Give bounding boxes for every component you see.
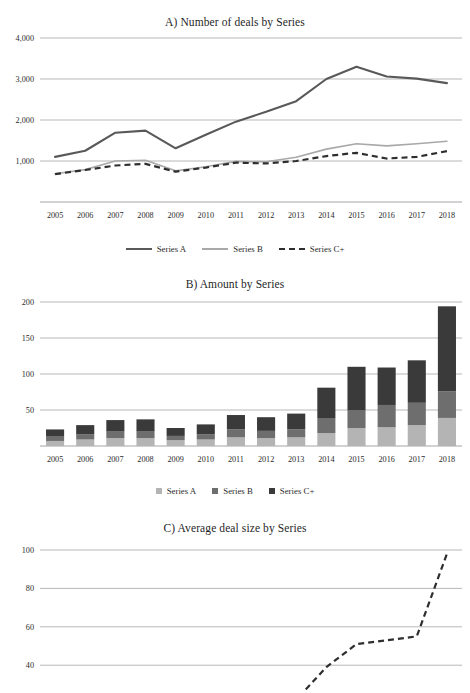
- legend-item-series-c[interactable]: Series C+: [279, 244, 345, 254]
- bar-segment: [347, 367, 365, 410]
- legend-item-series-b[interactable]: Series B: [202, 244, 263, 254]
- panel-a: A) Number of deals by Series 1,0002,0003…: [0, 0, 470, 278]
- figure-page: A) Number of deals by Series 1,0002,0003…: [0, 0, 470, 693]
- panel-b-legend: Series ASeries BSeries C+: [0, 486, 470, 496]
- x-tick-label: 2017: [409, 455, 425, 464]
- bar-segment: [46, 429, 64, 436]
- bar-segment: [347, 410, 365, 428]
- bar-segment: [197, 440, 215, 446]
- series-line-series-b: [55, 141, 447, 173]
- bar-segment: [408, 425, 426, 446]
- panel-b-title: B) Amount by Series: [0, 272, 470, 290]
- series-line-series-a: [55, 67, 447, 157]
- legend-item-series-a[interactable]: Series A: [156, 486, 197, 496]
- x-tick-label: 2013: [288, 455, 304, 464]
- x-tick-label: 2006: [77, 211, 93, 220]
- y-tick-label: 2,000: [16, 116, 34, 125]
- bar-segment: [257, 438, 275, 446]
- bar-segment: [227, 429, 245, 437]
- bar-segment: [438, 306, 456, 391]
- bar-segment: [76, 425, 94, 434]
- panel-c-chart: 406080100: [0, 534, 470, 690]
- series-line-series-c: [55, 151, 447, 174]
- legend-label: Series C+: [310, 244, 345, 254]
- bar-segment: [287, 414, 305, 430]
- bar-segment: [167, 440, 185, 446]
- bar-segment: [257, 431, 275, 438]
- bar-segment: [76, 434, 94, 439]
- panel-c-svg: 406080100: [0, 534, 470, 690]
- bar-segment: [106, 432, 124, 438]
- legend-swatch-square-icon: [269, 488, 275, 494]
- y-tick-label: 3,000: [16, 75, 34, 84]
- bar-segment: [257, 417, 275, 431]
- y-tick-label: 100: [22, 370, 34, 379]
- x-tick-label: 2011: [228, 211, 244, 220]
- legend-swatch-square-icon: [212, 488, 218, 494]
- bar-segment: [136, 432, 154, 438]
- y-tick-label: 80: [26, 584, 34, 593]
- y-tick-label: 150: [22, 334, 34, 343]
- panel-c: C) Average deal size by Series 406080100: [0, 516, 470, 693]
- x-tick-label: 2014: [318, 455, 334, 464]
- bar-segment: [167, 428, 185, 436]
- x-tick-label: 2008: [137, 455, 153, 464]
- bar-segment: [408, 403, 426, 425]
- panel-b-chart: 5010015020020052006200720082009201020112…: [0, 290, 470, 482]
- y-tick-label: 50: [26, 406, 34, 415]
- legend-item-series-a[interactable]: Series A: [126, 244, 187, 254]
- bar-segment: [227, 437, 245, 446]
- legend-swatch-square-icon: [156, 488, 162, 494]
- bar-segment: [317, 433, 335, 446]
- bar-segment: [76, 440, 94, 446]
- x-tick-label: 2005: [47, 455, 63, 464]
- bar-segment: [378, 368, 396, 405]
- x-tick-label: 2015: [348, 211, 364, 220]
- bar-segment: [197, 434, 215, 439]
- legend-label: Series A: [167, 486, 197, 496]
- x-tick-label: 2018: [439, 211, 455, 220]
- legend-item-series-c[interactable]: Series C+: [269, 486, 315, 496]
- x-tick-label: 2015: [348, 455, 364, 464]
- x-tick-label: 2008: [137, 211, 153, 220]
- bar-segment: [106, 438, 124, 446]
- x-tick-label: 2005: [47, 211, 63, 220]
- legend-label: Series B: [233, 244, 263, 254]
- y-tick-label: 4,000: [16, 34, 34, 43]
- x-tick-label: 2007: [107, 455, 123, 464]
- series-line-series-c: [55, 554, 447, 690]
- bar-segment: [167, 436, 185, 440]
- bar-segment: [136, 419, 154, 431]
- x-tick-label: 2012: [258, 455, 274, 464]
- legend-swatch-line-icon: [202, 248, 228, 250]
- x-tick-label: 2016: [378, 455, 394, 464]
- x-tick-label: 2018: [439, 455, 455, 464]
- bar-segment: [287, 429, 305, 437]
- y-tick-label: 60: [26, 623, 34, 632]
- legend-item-series-b[interactable]: Series B: [212, 486, 253, 496]
- bar-segment: [287, 437, 305, 446]
- panel-c-title: C) Average deal size by Series: [0, 516, 470, 534]
- bar-segment: [347, 428, 365, 446]
- x-tick-label: 2009: [167, 211, 183, 220]
- bar-segment: [106, 420, 124, 432]
- bar-segment: [46, 437, 64, 441]
- bar-segment: [378, 427, 396, 446]
- x-tick-label: 2013: [288, 211, 304, 220]
- bar-segment: [438, 418, 456, 446]
- legend-swatch-line-icon: [126, 248, 152, 250]
- panel-a-legend: Series ASeries BSeries C+: [0, 244, 470, 254]
- bar-segment: [227, 415, 245, 429]
- x-tick-label: 2017: [409, 211, 425, 220]
- x-tick-label: 2012: [258, 211, 274, 220]
- bar-segment: [317, 388, 335, 419]
- x-tick-label: 2010: [198, 211, 214, 220]
- bar-segment: [136, 438, 154, 446]
- panel-b: B) Amount by Series 50100150200200520062…: [0, 272, 470, 512]
- x-tick-label: 2011: [228, 455, 244, 464]
- bar-segment: [317, 419, 335, 433]
- bar-segment: [378, 405, 396, 427]
- x-tick-label: 2010: [198, 455, 214, 464]
- bar-segment: [46, 441, 64, 446]
- x-tick-label: 2007: [107, 211, 123, 220]
